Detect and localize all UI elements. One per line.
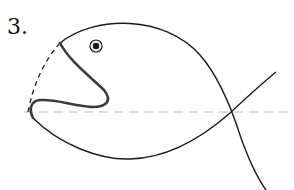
eye-icon [90, 40, 102, 52]
fish-diagram [0, 0, 294, 190]
mouth [31, 43, 108, 118]
lower-body-curve [33, 72, 276, 159]
figure-canvas: 3. [0, 0, 294, 190]
